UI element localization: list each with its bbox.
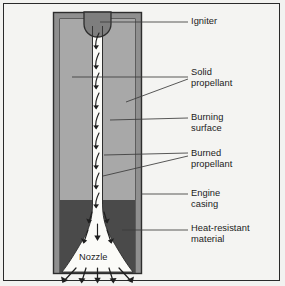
callout-engine-casing: Engine casing	[191, 188, 220, 209]
igniter-shape	[84, 12, 111, 37]
figure-canvas: Igniter Solid propellant Burning surface…	[0, 0, 285, 286]
solid-propellant-left	[60, 19, 93, 201]
callout-igniter: Igniter	[191, 16, 217, 27]
solid-propellant-right	[102, 19, 135, 201]
callout-heat-resistant-material: Heat-resistant material	[191, 223, 250, 244]
callout-burning-surface: Burning surface	[191, 112, 223, 133]
callout-solid-propellant: Solid propellant	[191, 67, 232, 88]
label-nozzle: Nozzle	[79, 252, 107, 262]
callout-burned-propellant: Burned propellant	[191, 148, 232, 169]
